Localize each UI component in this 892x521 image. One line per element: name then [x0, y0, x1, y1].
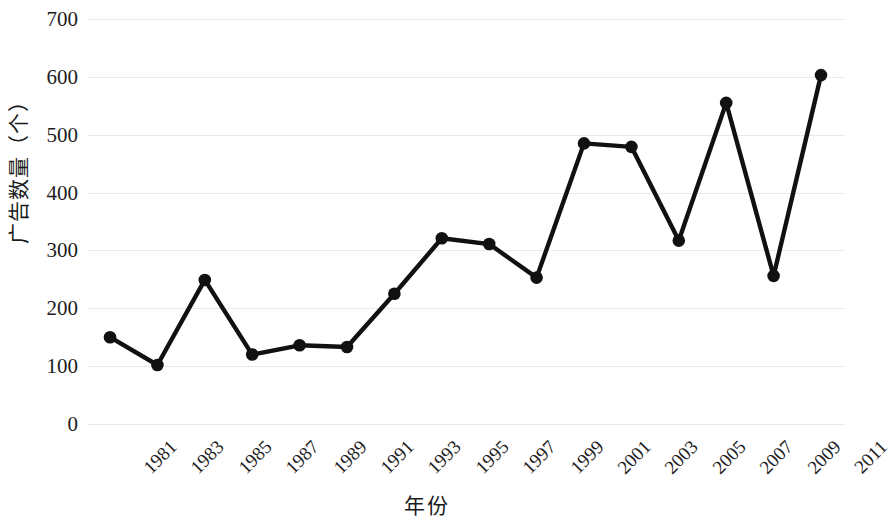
data-point: [388, 288, 401, 301]
data-point: [767, 270, 780, 283]
series-polyline: [110, 75, 821, 365]
x-tick-label: 1985: [234, 436, 276, 478]
x-tick-label: 2003: [661, 436, 703, 478]
series-markers: [104, 69, 828, 371]
x-tick-label: 1993: [424, 436, 466, 478]
data-point: [578, 137, 591, 150]
data-point: [720, 97, 733, 110]
x-tick-label: 1995: [471, 436, 513, 478]
data-point: [341, 341, 354, 354]
data-series-line: [88, 19, 845, 424]
y-tick-label: 600: [22, 64, 78, 89]
x-tick-label: 2001: [613, 436, 655, 478]
x-tick-label: 1999: [566, 436, 608, 478]
data-point: [104, 331, 117, 344]
x-axis-title: 年份: [0, 489, 853, 519]
x-tick-label: 1997: [518, 436, 560, 478]
data-point: [151, 359, 164, 372]
x-tick-label: 2011: [850, 436, 892, 478]
data-point: [815, 69, 828, 82]
data-point: [673, 234, 686, 247]
x-tick-label: 2005: [708, 436, 750, 478]
y-tick-label: 0: [22, 412, 78, 437]
data-point: [246, 348, 259, 361]
x-tick-label: 1991: [376, 436, 418, 478]
data-point: [293, 339, 306, 352]
x-tick-label: 1981: [139, 436, 181, 478]
data-point: [483, 238, 496, 251]
x-tick-label: 1983: [187, 436, 229, 478]
y-tick-label: 100: [22, 354, 78, 379]
y-tick-label: 200: [22, 296, 78, 321]
y-axis-tick-labels: 0100200300400500600700: [22, 0, 78, 521]
plot-area: [88, 19, 845, 424]
data-point: [530, 271, 543, 284]
y-tick-label: 500: [22, 122, 78, 147]
x-tick-label: 1989: [329, 436, 371, 478]
x-tick-label: 1987: [281, 436, 323, 478]
data-point: [199, 274, 212, 287]
data-point: [436, 232, 449, 245]
x-tick-label: 2007: [755, 436, 797, 478]
x-axis-tick-labels: 1981198319851987198919911993199519971999…: [88, 424, 845, 494]
x-tick-label: 2009: [803, 436, 845, 478]
data-point: [625, 141, 638, 154]
y-tick-label: 300: [22, 238, 78, 263]
y-tick-label: 400: [22, 180, 78, 205]
y-tick-label: 700: [22, 7, 78, 32]
